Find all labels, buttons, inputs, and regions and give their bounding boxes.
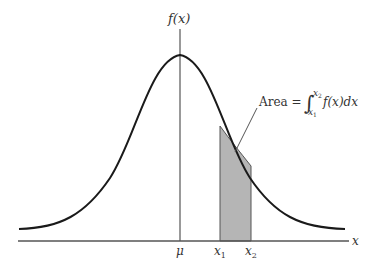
x-axis-label: x xyxy=(352,234,359,248)
integrand: f(x)dx xyxy=(322,95,358,109)
normal-curve-diagram: f(x) x μ x1 x2 Area = ∫ x2 x1 f(x)dx xyxy=(0,0,375,263)
shaded-area-region xyxy=(220,126,251,241)
x1-label: x1 xyxy=(214,244,226,260)
y-axis-label: f(x) xyxy=(167,11,190,26)
annotation-leader-line xyxy=(235,108,257,152)
area-prefix: Area = xyxy=(258,95,302,109)
x2-label: x2 xyxy=(245,244,257,260)
area-annotation: Area = ∫ x2 x1 f(x)dx xyxy=(258,88,358,118)
mu-label: μ xyxy=(176,244,184,258)
x2-subscript: 2 xyxy=(252,251,257,260)
normal-curve xyxy=(19,55,345,229)
integral-upper-limit: x2 xyxy=(313,88,322,99)
integral-lower-limit: x1 xyxy=(308,107,317,118)
x1-subscript: 1 xyxy=(221,251,226,260)
